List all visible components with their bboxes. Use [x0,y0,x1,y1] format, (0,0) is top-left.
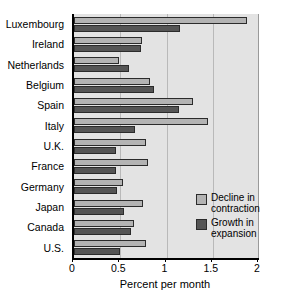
x-tick-label: 0.5 [111,262,126,274]
bar-decline [74,98,193,105]
bar-decline [74,159,148,166]
bar-decline [74,240,146,247]
x-tick-label: 1 [162,262,168,274]
x-axis-ticks: 00.511.52 [72,258,258,274]
bar-decline [74,78,150,85]
bar-growth [74,248,120,255]
bar-group [74,156,259,176]
legend-label: Decline in contraction [211,193,260,214]
x-tick-label: 2 [254,262,260,274]
bar-growth [74,167,116,174]
bar-group [74,136,259,156]
bar-growth [74,106,179,113]
bar-growth [74,228,131,235]
bar-decline [74,57,119,64]
x-tick-label: 1.5 [203,262,218,274]
bar-growth [74,86,154,93]
legend-entry: Decline in contraction [196,193,296,214]
x-tick-label: 0 [69,262,75,274]
x-axis-title: Percent per month [72,278,258,290]
category-label: U.K. [0,136,68,156]
bar-group [74,55,259,75]
bar-group [74,34,259,54]
category-label: Italy [0,116,68,136]
bar-growth [74,65,129,72]
category-label: Spain [0,95,68,115]
bar-decline [74,220,134,227]
chart-legend: Decline in contractionGrowth in expansio… [196,193,296,243]
bar-group [74,95,259,115]
bar-growth [74,25,180,32]
bar-decline [74,17,247,24]
bar-growth [74,45,141,52]
category-label: Belgium [0,75,68,95]
bar-growth [74,126,135,133]
category-label: Ireland [0,34,68,54]
legend-entry: Growth in expansion [196,218,296,239]
decline-swatch [196,194,207,205]
category-axis: LuxembourgIrelandNetherlandsBelgiumSpain… [0,14,68,258]
category-label: Luxembourg [0,14,68,34]
bar-growth [74,147,116,154]
bar-growth [74,208,124,215]
bar-decline [74,139,146,146]
bar-decline [74,179,123,186]
bar-group [74,116,259,136]
bar-decline [74,37,142,44]
legend-label: Growth in expansion [211,218,257,239]
category-label: Canada [0,217,68,237]
category-label: Germany [0,177,68,197]
bar-group [74,75,259,95]
bar-decline [74,118,208,125]
growth-swatch [196,219,207,230]
bar-growth [74,187,117,194]
category-label: U.S. [0,238,68,258]
bar-decline [74,200,143,207]
category-label: Japan [0,197,68,217]
category-label: Netherlands [0,55,68,75]
bar-chart: LuxembourgIrelandNetherlandsBelgiumSpain… [0,0,303,308]
bar-group [74,14,259,34]
category-label: France [0,156,68,176]
